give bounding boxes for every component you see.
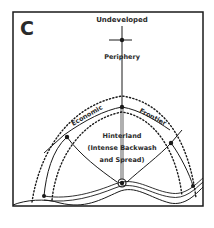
label-frontier: Frontier <box>138 107 168 128</box>
core-periphery-diagram: C Undeveloped Periphery Economic Frontie… <box>0 0 214 228</box>
frontier-node-east <box>169 141 173 145</box>
label-hinterland: Hinterland <box>103 132 142 140</box>
periphery-node <box>120 38 124 42</box>
coastline <box>13 187 203 205</box>
label-hinterland-detail-1: (Intense Backwash <box>87 144 156 152</box>
label-periphery: Periphery <box>104 53 141 61</box>
road-west-down <box>44 137 67 196</box>
label-hinterland-detail-2: and Spread) <box>100 156 145 164</box>
panel-letter: C <box>20 17 34 39</box>
label-undeveloped: Undeveloped <box>96 16 148 24</box>
frontier-node-west <box>65 135 69 139</box>
panel-frame <box>13 12 203 206</box>
label-economic: Economic <box>70 103 104 127</box>
frontier-node-center <box>120 105 124 109</box>
